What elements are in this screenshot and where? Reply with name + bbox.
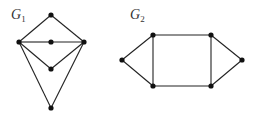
graph-g2: G2 [119,7,244,89]
graph-g1: G1 [11,7,87,111]
edge-left-lower [19,42,51,69]
vertex-right [239,57,244,62]
vertex-left [119,57,124,62]
vertex-top [48,12,53,17]
edge-bottom_right-right [211,60,242,86]
g1-vertices [16,12,86,110]
vertex-right [81,39,86,44]
vertex-bottom_left [150,83,155,88]
edge-top_right-right [211,35,242,60]
vertex-bottom [48,105,53,110]
vertex-top_right [208,32,213,37]
vertex-bottom_right [208,83,213,88]
edge-left-bottom_left [122,60,153,86]
edge-left-bottom [19,42,51,108]
vertex-top_left [150,32,155,37]
edge-top-right [51,15,84,42]
g1-label: G1 [11,7,26,24]
vertex-left [16,39,21,44]
edge-right-bottom [51,42,84,108]
g2-edges [122,35,242,86]
edge-left-top_left [122,35,153,60]
graph-diagram: G1 G2 [0,0,260,115]
vertex-center [48,39,53,44]
g2-label: G2 [130,7,145,24]
g1-edges [19,15,84,108]
g2-vertices [119,32,244,88]
vertex-lower [48,66,53,71]
edge-lower-right [51,42,84,69]
